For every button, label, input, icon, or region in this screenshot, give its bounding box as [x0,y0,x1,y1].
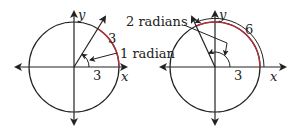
terminal-ray [192,17,215,67]
right-diagram: y x 3 6 2 radians [126,7,285,124]
angle-label: 1 radian [120,46,176,61]
angle-label: 2 radians [126,14,188,29]
x-axis-label: x [270,69,278,84]
radius-label: 3 [93,68,101,83]
radius-label: 3 [234,68,242,83]
label-pointer [90,53,117,60]
x-axis-label: x [121,69,129,84]
y-axis-label: y [218,7,227,22]
angle-arc [82,54,89,67]
radian-diagrams: y x 3 3 1 radian y x 3 6 2 radians [0,0,290,133]
arc-arrow [196,18,264,67]
y-axis-label: y [77,7,86,22]
arc-label: 6 [245,22,253,37]
arc-label: 3 [108,31,116,46]
